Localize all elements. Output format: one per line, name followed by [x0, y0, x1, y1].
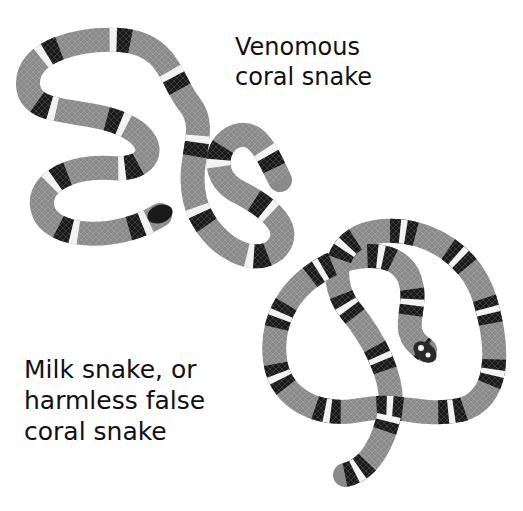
venomous-coral-snake-label: Venomous coral snake [235, 32, 372, 92]
milk-snake [274, 231, 494, 475]
milk-snake-label: Milk snake, or harmless false coral snak… [24, 354, 205, 447]
